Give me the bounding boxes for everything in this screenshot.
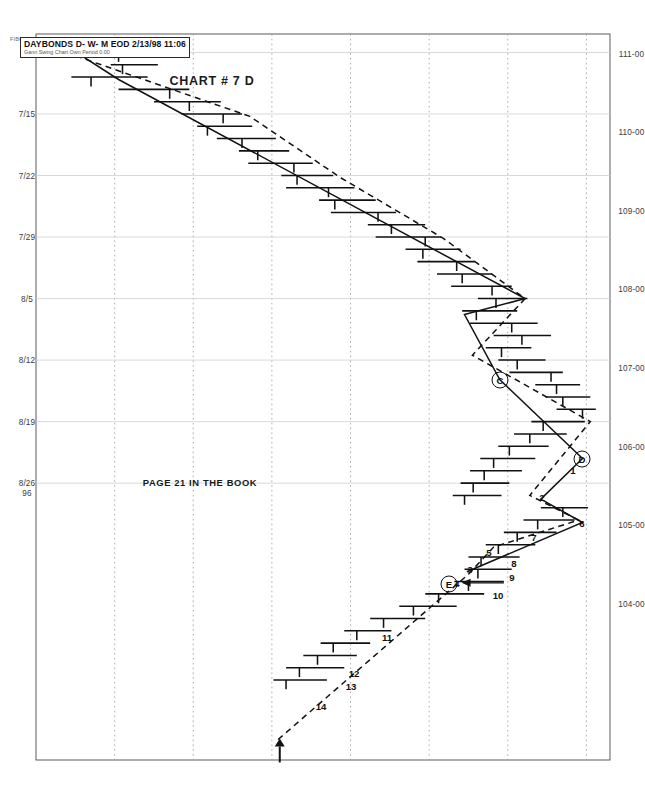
swing-number-label: 11 xyxy=(382,631,392,642)
price-tick-label: 106-00 xyxy=(618,442,645,451)
date-tick-label: 8/19 xyxy=(19,417,36,426)
swing-number-label: 8 xyxy=(511,558,516,569)
swing-number-label: 10 xyxy=(493,590,504,601)
date-tick-label: 8/5 xyxy=(21,294,33,303)
swing-number-label: 13 xyxy=(346,681,357,692)
price-tick-label: 111-00 xyxy=(619,49,644,58)
year-label: 96 xyxy=(22,489,32,498)
page-reference-note: PAGE 21 IN THE BOOK xyxy=(143,477,257,488)
swing-number-label: 3 xyxy=(467,564,472,575)
date-tick-label: 7/29 xyxy=(19,233,36,242)
price-tick-label: 107-00 xyxy=(618,364,645,373)
price-tick-label: 110-00 xyxy=(618,128,644,137)
swing-number-label: 5 xyxy=(486,547,491,558)
swing-number-label: 7 xyxy=(531,532,536,543)
symbol-info-box[interactable]: DAYBONDS D- W- M EOD 2/13/98 11:06Gann S… xyxy=(20,37,190,58)
page-title: CHART # 7 D xyxy=(170,74,255,88)
swing-number-label: 12 xyxy=(349,667,360,678)
swing-number-label: 14 xyxy=(316,700,327,711)
date-tick-label: 8/12 xyxy=(19,356,36,365)
pivot-marker-e: E xyxy=(440,576,457,593)
swing-number-label: 2 xyxy=(539,491,544,502)
pivot-marker-c: C xyxy=(491,371,508,388)
pivot-marker-d: D xyxy=(574,450,591,467)
swing-number-label: 1 xyxy=(570,464,575,475)
swing-number-label: 9 xyxy=(509,571,514,582)
date-tick-label: 7/15 xyxy=(19,109,36,118)
date-tick-label: 8/26 xyxy=(19,479,36,488)
symbol-title: DAYBONDS D- W- M EOD 2/13/98 11:06 xyxy=(24,39,186,49)
symbol-subtitle: Gann Swing Chart Own Period 0.00 xyxy=(24,49,186,55)
price-tick-label: 104-00 xyxy=(618,600,645,609)
price-tick-label: 109-00 xyxy=(618,206,645,215)
swing-number-label: 6 xyxy=(580,517,585,528)
price-tick-label: 108-00 xyxy=(618,285,645,294)
date-tick-label: 7/22 xyxy=(19,171,36,180)
price-tick-label: 105-00 xyxy=(618,521,645,530)
